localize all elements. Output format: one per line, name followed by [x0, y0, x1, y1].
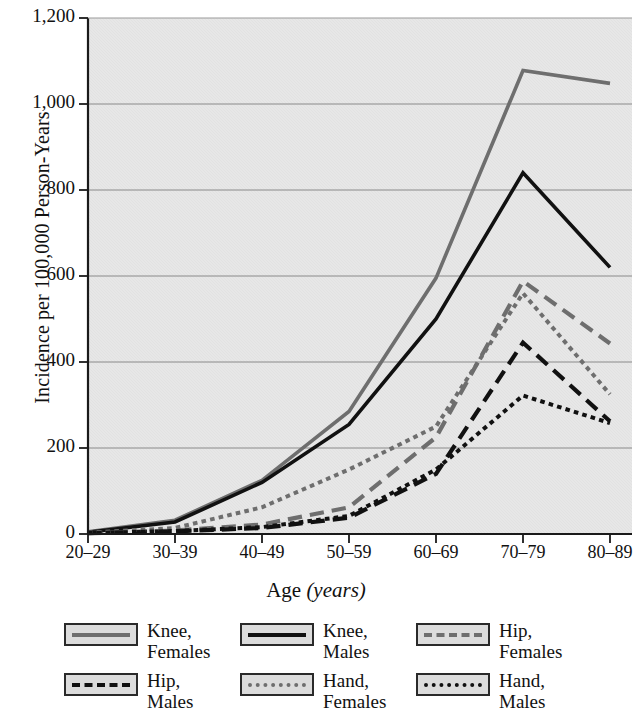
tick-marks — [79, 18, 610, 543]
legend-swatch — [64, 623, 138, 646]
legend-item[interactable]: Hip, Females — [416, 620, 568, 670]
y-tick-label: 1,200 — [3, 5, 75, 27]
legend-swatch — [240, 623, 314, 646]
y-tick-label: 1,000 — [3, 91, 75, 113]
series-line — [88, 396, 610, 534]
legend-item[interactable]: Hand, Females — [240, 670, 392, 720]
legend-item[interactable]: Knee, Males — [240, 620, 392, 670]
y-tick-label: 200 — [3, 435, 75, 457]
legend-row-first: Knee, FemalesKnee, MalesHip, Females — [0, 620, 632, 670]
x-axis-title-units: (years) — [306, 578, 365, 602]
series-line — [88, 281, 610, 533]
series-line — [88, 173, 610, 533]
y-tick-label: 800 — [3, 177, 75, 199]
chart-legend: Knee, FemalesKnee, MalesHip, Females Hip… — [0, 620, 632, 724]
legend-line-sample — [248, 683, 306, 687]
y-tick-label: 600 — [3, 263, 75, 285]
legend-label: Knee, Females — [147, 620, 210, 662]
legend-swatch — [416, 623, 490, 646]
series-lines — [88, 71, 610, 534]
legend-swatch — [416, 673, 490, 696]
legend-line-sample — [424, 633, 482, 637]
legend-item[interactable]: Knee, Females — [64, 620, 216, 670]
x-tick-label: 40–49 — [214, 542, 310, 563]
legend-item[interactable]: Hip, Males — [64, 670, 216, 720]
legend-row-second: Hip, MalesHand, FemalesHand, Males — [0, 670, 632, 720]
legend-line-sample — [248, 633, 306, 637]
series-line — [88, 343, 610, 533]
legend-item[interactable]: Hand, Males — [416, 670, 568, 720]
legend-swatch — [240, 673, 314, 696]
x-tick-label: 50–59 — [301, 542, 397, 563]
legend-line-sample — [424, 683, 482, 687]
legend-line-sample — [72, 683, 130, 687]
x-tick-label: 30–39 — [127, 542, 223, 563]
legend-line-sample — [72, 633, 130, 637]
x-tick-label: 60–69 — [388, 542, 484, 563]
x-axis-title-plain: Age — [266, 578, 306, 602]
legend-swatch — [64, 673, 138, 696]
x-axis-title: Age (years) — [0, 578, 632, 603]
legend-label: Hip, Females — [499, 620, 562, 662]
y-tick-label: 0 — [3, 521, 75, 543]
plot-area: Incidence per 100,000 Person-Years 02004… — [0, 0, 632, 560]
x-tick-label: 20–29 — [40, 542, 136, 563]
legend-label: Hand, Females — [323, 670, 386, 712]
x-tick-label: 70–79 — [475, 542, 571, 563]
x-tick-label: 80–89 — [562, 542, 637, 563]
y-tick-label: 400 — [3, 349, 75, 371]
chart-canvas — [0, 0, 632, 560]
legend-label: Knee, Males — [323, 620, 369, 662]
legend-label: Hand, Males — [499, 670, 545, 712]
legend-label: Hip, Males — [147, 670, 193, 712]
